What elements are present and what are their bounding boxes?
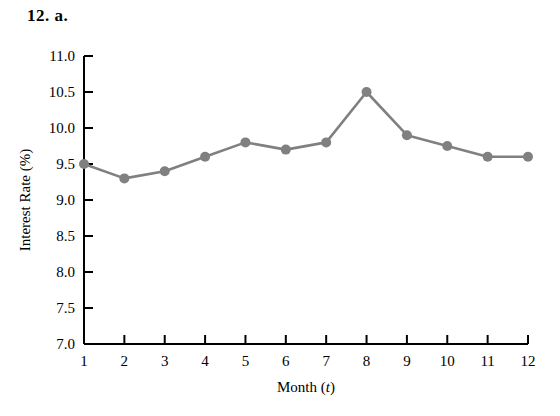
y-axis-tick-label: 9.5 [56, 156, 75, 172]
data-line [84, 92, 528, 178]
x-axis-tick-label: 3 [161, 353, 169, 369]
x-axis-tick-label: 2 [121, 353, 129, 369]
y-axis-tick-label: 8.0 [56, 264, 75, 280]
data-point-marker [281, 145, 291, 155]
data-point-marker [200, 152, 210, 162]
x-axis-tick-label: 6 [282, 353, 290, 369]
x-axis-tick-label: 11 [480, 353, 494, 369]
data-point-markers [79, 87, 533, 183]
y-axis-tick-label: 8.5 [56, 228, 75, 244]
x-axis-tick-label: 5 [242, 353, 250, 369]
data-point-marker [362, 87, 372, 97]
x-axis-tick-label: 4 [201, 353, 209, 369]
data-point-marker [483, 152, 493, 162]
data-point-marker [442, 141, 452, 151]
line-chart: 7.07.58.08.59.09.510.010.511.0 123456789… [0, 0, 560, 416]
data-point-marker [523, 152, 533, 162]
y-axis-ticks: 7.07.58.08.59.09.510.010.511.0 [49, 48, 93, 352]
y-axis-tick-label: 7.0 [56, 336, 75, 352]
x-axis-ticks: 123456789101112 [80, 335, 535, 369]
chart-svg: 7.07.58.08.59.09.510.010.511.0 123456789… [0, 0, 560, 416]
data-point-marker [321, 137, 331, 147]
x-axis-tick-label: 12 [521, 353, 536, 369]
x-axis-tick-label: 10 [440, 353, 455, 369]
y-axis-tick-label: 11.0 [49, 48, 75, 64]
x-axis-title: Month (t) [277, 379, 335, 396]
y-axis-title: Interest Rate (%) [17, 149, 34, 251]
y-axis-tick-label: 10.0 [49, 120, 75, 136]
y-axis-tick-label: 10.5 [49, 84, 75, 100]
x-axis-tick-label: 7 [322, 353, 330, 369]
x-axis-tick-label: 1 [80, 353, 88, 369]
y-axis-tick-label: 7.5 [56, 300, 75, 316]
data-point-marker [402, 130, 412, 140]
figure-page: 12. a. 7.07.58.08.59.09.510.010.511.0 12… [0, 0, 560, 416]
x-axis-tick-label: 8 [363, 353, 371, 369]
data-point-marker [79, 159, 89, 169]
data-point-marker [240, 137, 250, 147]
y-axis-tick-label: 9.0 [56, 192, 75, 208]
x-axis-tick-label: 9 [403, 353, 411, 369]
data-point-marker [119, 173, 129, 183]
data-point-marker [160, 166, 170, 176]
